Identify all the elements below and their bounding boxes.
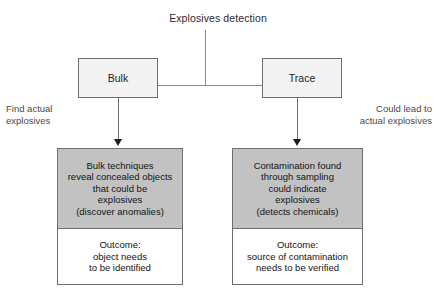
panel-trace-outcome: Outcome: source of contamination needs t… — [233, 229, 362, 284]
panel-bulk-description: Bulk techniques reveal concealed objects… — [58, 149, 182, 229]
side-note-bulk: Find actual explosives — [6, 103, 76, 127]
category-box-trace[interactable]: Trace — [262, 58, 342, 98]
category-box-bulk-label: Bulk — [108, 72, 128, 84]
panel-bulk-outcome: Outcome: object needs to be identified — [58, 229, 182, 284]
panel-bulk[interactable]: Bulk techniques reveal concealed objects… — [57, 148, 183, 285]
arrow-bulk-to-panel-stem — [118, 98, 119, 140]
diagram-canvas: Explosives detection Bulk Trace Find act… — [0, 0, 436, 302]
category-box-trace-label: Trace — [289, 72, 315, 84]
side-note-trace: Could lead to actual explosives — [340, 103, 432, 127]
category-box-bulk[interactable]: Bulk — [78, 58, 158, 98]
panel-trace[interactable]: Contamination found through sampling cou… — [232, 148, 363, 285]
arrow-trace-to-panel-stem — [297, 98, 298, 140]
diagram-title: Explosives detection — [0, 12, 436, 24]
panel-trace-description: Contamination found through sampling cou… — [233, 149, 362, 229]
arrow-trace-to-panel-head-icon — [293, 139, 301, 146]
root-connector-vertical-line — [205, 30, 206, 85]
arrow-bulk-to-panel-head-icon — [114, 139, 122, 146]
branch-connector-horizontal-line — [158, 85, 262, 86]
